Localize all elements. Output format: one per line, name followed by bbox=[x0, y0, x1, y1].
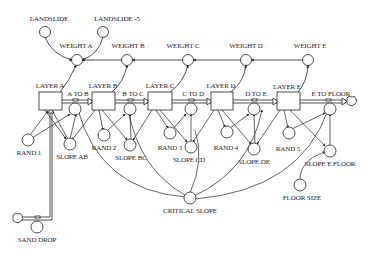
label-layer-a: LAYER A bbox=[36, 82, 64, 90]
connector-r2-btoc bbox=[107, 114, 125, 131]
label-slope-bc: SLOPE BC bbox=[115, 154, 147, 162]
aux-weight-c[interactable] bbox=[183, 55, 194, 66]
aux-slope-ab[interactable] bbox=[64, 138, 76, 150]
label-layer-b: LAYER B bbox=[89, 82, 117, 90]
flow-rate-btoc[interactable] bbox=[124, 103, 136, 115]
connector-r1-atob bbox=[32, 114, 70, 138]
aux-rand-1[interactable] bbox=[22, 134, 34, 146]
aux-critical-slope[interactable] bbox=[184, 192, 196, 204]
label-b-to-c: B TO C bbox=[122, 90, 143, 98]
valve-btoc bbox=[128, 99, 133, 101]
aux-landslide[interactable] bbox=[40, 27, 51, 38]
stock-layer-b[interactable] bbox=[92, 92, 115, 110]
label-slope-ab: SLOPE AB bbox=[56, 153, 88, 161]
connector-r5-etofloor bbox=[292, 113, 325, 129]
aux-weight-a[interactable] bbox=[72, 55, 83, 66]
label-a-to-b: A TO B bbox=[67, 90, 88, 98]
flow-rate-ctod[interactable] bbox=[185, 103, 197, 115]
connector-sab-atob bbox=[70, 114, 76, 139]
label-landslide-5: LANDSLIDE -5 bbox=[94, 15, 140, 23]
aux-slope-cd[interactable] bbox=[185, 141, 197, 153]
connector-r4-dtoe bbox=[230, 114, 249, 128]
aux-rand-2[interactable] bbox=[98, 129, 110, 141]
connector-sde-dtoe bbox=[254, 114, 255, 144]
label-layer-d: LAYER D bbox=[207, 82, 236, 90]
label-critical-slope: CRITICAL SLOPE bbox=[163, 207, 217, 215]
label-weight-e: WEIGHT E bbox=[294, 42, 327, 50]
connector-cs-btoc bbox=[128, 110, 185, 195]
connector-sbc-btoc bbox=[130, 114, 131, 140]
connector-r3-ctod bbox=[173, 114, 186, 129]
label-weight-a: WEIGHT A bbox=[59, 42, 92, 50]
label-rand-4: RAND 4 bbox=[214, 144, 239, 152]
label-rand-3: RAND 3 bbox=[158, 144, 183, 152]
label-rand-5: RAND 5 bbox=[276, 145, 301, 153]
flow-rate-dtoe[interactable] bbox=[248, 103, 260, 115]
label-c-to-d: C TO D bbox=[182, 90, 204, 98]
connector-la-sab2 bbox=[52, 110, 68, 139]
label-rand-2: RAND 2 bbox=[92, 144, 117, 152]
flow-pipe-etofloor bbox=[300, 100, 346, 103]
flow-rate-atob[interactable] bbox=[69, 103, 81, 115]
label-slope-de: SLOPE DE bbox=[238, 158, 270, 166]
connector-lc-sbc bbox=[133, 110, 152, 140]
label-d-to-e: D TO E bbox=[245, 90, 266, 98]
connector-le-r5 bbox=[284, 110, 288, 128]
aux-floor-size[interactable] bbox=[294, 179, 306, 191]
label-weight-d: WEIGHT D bbox=[229, 42, 262, 50]
connector-lb-r2 bbox=[99, 110, 103, 130]
flow-pipe-sanddrop bbox=[22, 110, 52, 220]
label-layer-e: LAYER E bbox=[273, 83, 301, 91]
label-landslide: LANDSLIDE bbox=[30, 15, 68, 23]
label-floor-size: FLOOR SIZE bbox=[283, 194, 321, 202]
label-layer-c: LAYER C bbox=[146, 82, 174, 90]
aux-sand-drop[interactable] bbox=[31, 221, 43, 233]
valve-sanddrop bbox=[35, 216, 40, 218]
aux-landslide-5[interactable] bbox=[98, 27, 109, 38]
aux-weight-d[interactable] bbox=[241, 55, 252, 66]
stock-layer-e[interactable] bbox=[277, 92, 300, 110]
label-slope-e-floor: SLOPE E FLOOR bbox=[305, 160, 356, 168]
flow-rate-etofloor[interactable] bbox=[324, 103, 336, 115]
label-weight-b: WEIGHT B bbox=[111, 42, 144, 50]
aux-slope-bc[interactable] bbox=[124, 139, 136, 151]
aux-rand-3[interactable] bbox=[164, 127, 176, 139]
stock-flow-diagram bbox=[0, 0, 377, 262]
cloud-source-icon bbox=[13, 213, 23, 223]
aux-slope-e-floor[interactable] bbox=[324, 145, 336, 157]
valve-ctod bbox=[189, 99, 194, 101]
label-rand-1: RAND 1 bbox=[17, 149, 42, 157]
label-e-to-floor: E TO FLOOR bbox=[312, 90, 351, 98]
aux-rand-4[interactable] bbox=[221, 126, 233, 138]
stock-layer-a[interactable] bbox=[39, 92, 62, 110]
connector-le-sde bbox=[257, 110, 280, 144]
connector-la-sab bbox=[45, 110, 66, 139]
label-sand-drop: SAND DROP bbox=[18, 236, 57, 244]
stock-layer-c[interactable] bbox=[148, 92, 172, 110]
flow-arrow-etofloor bbox=[342, 98, 347, 105]
aux-rand-5[interactable] bbox=[283, 127, 295, 139]
valve-etofloor bbox=[326, 99, 331, 101]
aux-slope-de[interactable] bbox=[248, 143, 260, 155]
aux-weight-e[interactable] bbox=[303, 55, 314, 66]
label-weight-c: WEIGHT C bbox=[166, 42, 199, 50]
valve-atob bbox=[73, 99, 78, 101]
aux-weight-b[interactable] bbox=[122, 55, 133, 66]
connector-cs-etofloor bbox=[195, 110, 328, 199]
valve-dtoe bbox=[252, 99, 257, 101]
connector-ld-scd bbox=[193, 110, 214, 142]
label-slope-cd: SLOPE CD bbox=[173, 156, 205, 164]
connector-la-r1 bbox=[30, 111, 48, 135]
stock-layer-d[interactable] bbox=[211, 92, 233, 110]
